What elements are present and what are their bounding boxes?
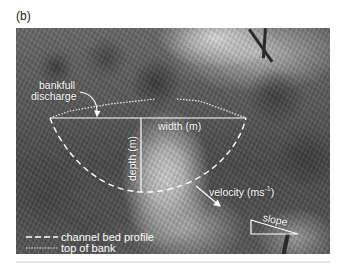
bankfull-label-line2: discharge: [31, 90, 77, 102]
channel-bed-profile: [50, 118, 246, 192]
width-label: width (m): [158, 121, 201, 132]
discharge-label: discharge: [31, 91, 77, 102]
bankfull-label: bankfull: [36, 80, 75, 91]
bankfull-label-line1: bankfull: [36, 80, 75, 91]
bankfull-arrow: [80, 92, 97, 116]
annotation-overlay: [0, 0, 343, 267]
width-label-text: width (m): [158, 120, 201, 132]
velocity-label-text: velocity (ms: [209, 186, 264, 198]
divider: [16, 261, 330, 263]
legend-item-top-of-bank: top of bank: [61, 243, 115, 254]
depth-label: depth (m): [127, 136, 138, 181]
velocity-label: velocity (ms-1): [209, 185, 274, 197]
top-of-bank-line: [50, 99, 246, 118]
legend-label: top of bank: [61, 242, 115, 254]
velocity-label-close: ): [271, 186, 275, 198]
depth-label-text: depth (m): [126, 136, 138, 181]
